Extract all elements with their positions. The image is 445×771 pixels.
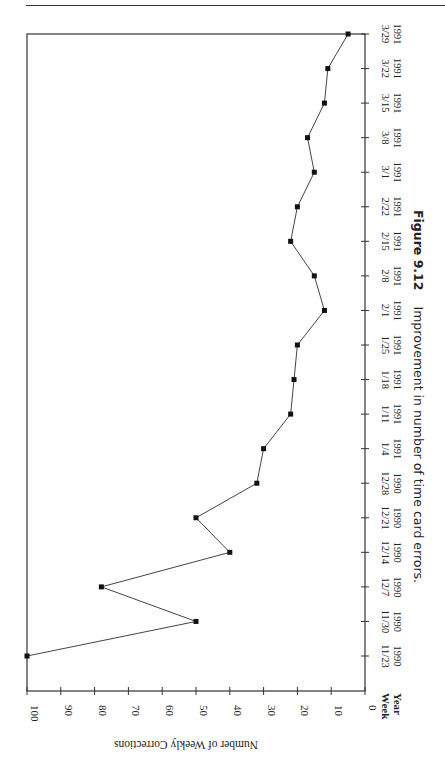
svg-text:12/7: 12/7 <box>380 578 391 597</box>
category-tick-label: 11/231990 <box>380 644 403 668</box>
value-tick-label: 70 <box>130 705 142 717</box>
value-tick-label: 30 <box>266 705 278 717</box>
data-point-marker <box>322 308 327 313</box>
category-tick-label: 3/151991 <box>380 93 403 114</box>
data-point-marker <box>99 584 104 589</box>
svg-text:1/11: 1/11 <box>380 405 391 423</box>
svg-text:1990: 1990 <box>392 611 403 632</box>
svg-text:1991: 1991 <box>392 335 403 356</box>
svg-text:1991: 1991 <box>392 93 403 114</box>
svg-text:1990: 1990 <box>392 507 403 528</box>
svg-text:12/28: 12/28 <box>380 471 391 495</box>
svg-text:Year: Year <box>392 693 404 715</box>
svg-text:1991: 1991 <box>392 404 403 425</box>
category-tick-label: 11/301990 <box>380 610 403 634</box>
svg-text:1991: 1991 <box>392 231 403 252</box>
value-tick-label: 90 <box>63 705 75 717</box>
series-markers <box>25 32 351 659</box>
category-tick-label: 3/221991 <box>380 58 403 79</box>
svg-text:1991: 1991 <box>392 127 403 148</box>
data-point-marker <box>194 515 199 520</box>
category-tick-label: 12/211990 <box>380 506 403 530</box>
figure-number: Figure 9.12 <box>411 210 426 291</box>
data-point-marker <box>305 135 310 140</box>
value-axis-title: Number of Weekly Corrections <box>113 738 258 751</box>
category-tick-label: 2/81991 <box>380 265 403 286</box>
data-point-marker <box>227 550 232 555</box>
value-tick-label: 10 <box>333 705 345 717</box>
category-tick-label: 2/221991 <box>380 196 403 217</box>
svg-text:11/23: 11/23 <box>380 644 391 668</box>
svg-text:1991: 1991 <box>392 265 403 286</box>
data-point-marker <box>295 204 300 209</box>
svg-text:1991: 1991 <box>392 24 403 45</box>
figure-caption: Figure 9.12 Improvement in number of tim… <box>411 210 426 583</box>
svg-text:2/15: 2/15 <box>380 232 391 251</box>
series-line <box>27 34 348 656</box>
category-tick-label: 1/41991 <box>380 438 403 459</box>
category-tick-label: 1/251991 <box>380 335 403 356</box>
svg-text:1991: 1991 <box>392 438 403 459</box>
svg-text:Number of Weekly Corrections: Number of Weekly Corrections <box>113 738 258 751</box>
svg-text:1/18: 1/18 <box>380 370 391 389</box>
category-tick-label: 1/181991 <box>380 369 403 390</box>
svg-text:12/14: 12/14 <box>380 540 391 565</box>
data-point-marker <box>288 412 293 417</box>
category-tick-label: 12/71990 <box>380 576 403 597</box>
svg-text:1990: 1990 <box>392 646 403 667</box>
svg-text:3/15: 3/15 <box>380 94 391 113</box>
svg-text:1990: 1990 <box>392 473 403 494</box>
svg-text:1/25: 1/25 <box>380 336 391 355</box>
svg-text:2/8: 2/8 <box>380 269 391 282</box>
svg-text:Week: Week <box>380 693 392 720</box>
category-tick-label: 2/11991 <box>380 300 403 321</box>
data-point-marker <box>288 239 293 244</box>
value-tick-label: 60 <box>164 705 176 717</box>
category-tick-label: 3/291991 <box>380 24 403 45</box>
data-point-marker <box>25 654 30 659</box>
data-point-marker <box>325 66 330 71</box>
svg-text:1991: 1991 <box>392 196 403 217</box>
category-tick-label: 3/81991 <box>380 127 403 148</box>
value-tick-label: 50 <box>198 705 210 717</box>
value-tick-label: 40 <box>232 705 244 717</box>
svg-text:1991: 1991 <box>392 300 403 321</box>
svg-text:1990: 1990 <box>392 576 403 597</box>
figure-caption-text: Improvement in number of time card error… <box>411 307 426 584</box>
data-point-marker <box>295 343 300 348</box>
category-row-labels: WeekYear <box>380 693 404 720</box>
data-point-marker <box>312 170 317 175</box>
svg-text:3/1: 3/1 <box>380 166 391 179</box>
data-point-marker <box>312 273 317 278</box>
data-point-marker <box>194 619 199 624</box>
category-tick-label: 1/111991 <box>380 404 403 425</box>
data-point-marker <box>261 446 266 451</box>
value-tick-label: 20 <box>299 705 311 717</box>
svg-text:12/21: 12/21 <box>380 506 391 530</box>
value-axis: 0102030405060708090100 <box>27 687 379 722</box>
svg-text:1/4: 1/4 <box>380 442 391 456</box>
value-tick-label: 100 <box>29 705 41 722</box>
svg-text:1991: 1991 <box>392 369 403 390</box>
value-tick-label: 80 <box>97 705 109 717</box>
svg-text:3/22: 3/22 <box>380 59 391 78</box>
svg-text:1991: 1991 <box>392 58 403 79</box>
svg-text:2/1: 2/1 <box>380 304 391 317</box>
category-tick-label: 2/151991 <box>380 231 403 252</box>
category-tick-label: 12/141990 <box>380 540 403 565</box>
svg-text:2/22: 2/22 <box>380 197 391 216</box>
data-point-marker <box>346 32 351 37</box>
svg-text:3/29: 3/29 <box>380 25 391 44</box>
svg-text:1990: 1990 <box>392 542 403 563</box>
category-tick-label: 3/11991 <box>380 162 403 183</box>
line-chart: 0102030405060708090100 11/23199011/30199… <box>0 0 445 771</box>
value-tick-label: 0 <box>367 705 379 711</box>
svg-text:11/30: 11/30 <box>380 610 391 634</box>
plot-frame <box>27 34 365 691</box>
data-point-marker <box>254 481 259 486</box>
svg-text:1991: 1991 <box>392 162 403 183</box>
category-axis: 11/23199011/30199012/7199012/14199012/21… <box>361 24 404 721</box>
category-tick-label: 12/281990 <box>380 471 403 495</box>
data-point-marker <box>292 377 297 382</box>
svg-text:3/8: 3/8 <box>380 131 391 144</box>
